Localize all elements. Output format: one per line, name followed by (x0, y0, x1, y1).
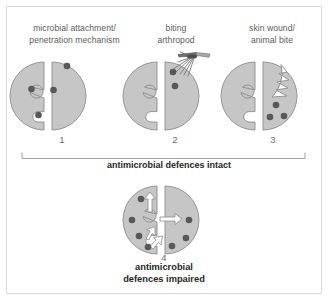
panel-3-microbe (267, 114, 274, 121)
panel-3-microbe (273, 102, 280, 109)
figure-root: microbial attachment/ penetration mechan… (0, 0, 329, 301)
panel-1-microbe (64, 63, 71, 70)
panel-4-microbe (183, 235, 190, 242)
panel-3-microbe (281, 113, 288, 120)
panel-1-microbe (50, 87, 57, 94)
panel-4-microbe (145, 244, 152, 251)
panel-1-left-tissue (10, 62, 44, 130)
arthropod-body (187, 55, 197, 59)
panel-2-left-tissue (123, 62, 157, 130)
panel-4-figure (123, 186, 199, 254)
panel-4-microbe (138, 196, 145, 203)
arthropod-wing-right (196, 53, 210, 58)
panel-3-left-tissue (221, 62, 255, 130)
panel-1-right-tissue (52, 62, 86, 130)
panel-1-figure (10, 62, 86, 130)
panel-4-microbe (129, 217, 136, 224)
panel-3-figure (221, 62, 297, 130)
defences-intact-bracket (22, 153, 305, 159)
diagram-graphics (0, 0, 329, 301)
panel-2-microbe (172, 83, 179, 90)
panel-4-microbe (136, 233, 143, 240)
panel-4-microbe (186, 217, 193, 224)
panel-1-microbe (35, 112, 42, 119)
panel-4-microbe (169, 243, 176, 250)
panel-1-microbe (28, 86, 35, 93)
panel-2-figure (123, 52, 210, 131)
